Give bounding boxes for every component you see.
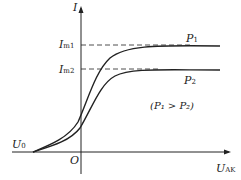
p1-sub: 1 — [193, 36, 197, 44]
u0-text: U — [12, 138, 21, 151]
im1-sub: m1 — [63, 42, 74, 50]
x-axis-text: U — [216, 162, 225, 175]
p2-sub: 2 — [191, 78, 195, 86]
x-axis-sub: AK — [225, 166, 235, 174]
im1-label: Im1 — [59, 39, 74, 50]
y-axis-arrow-icon — [79, 6, 84, 13]
p2-label: P2 — [184, 75, 196, 86]
curve-p1 — [33, 46, 220, 152]
u0-label: U0 — [12, 139, 26, 150]
im2-sub: m2 — [63, 67, 74, 75]
condition-label: (P₁ > P₂) — [150, 101, 194, 111]
p1-label: P1 — [186, 33, 198, 44]
x-axis-arrow-icon — [224, 150, 231, 155]
x-axis-label: UAK — [216, 163, 236, 174]
origin-label: O — [70, 155, 79, 166]
photocell-iv-diagram: I Im1 Im2 P1 P2 (P₁ > P₂) U0 O UAK — [0, 0, 241, 180]
diagram-canvas — [0, 0, 241, 180]
u0-sub: 0 — [21, 142, 25, 150]
y-axis-label: I — [73, 2, 77, 13]
im2-label: Im2 — [59, 64, 74, 75]
